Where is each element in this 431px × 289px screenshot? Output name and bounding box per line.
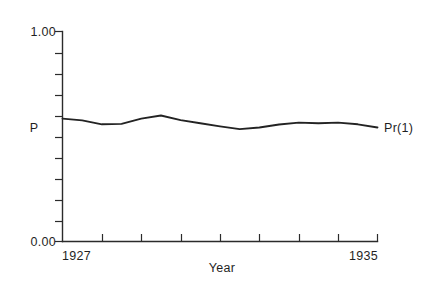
y-axis-min-label: 0.00 xyxy=(30,235,56,249)
y-axis-max-label: 1.00 xyxy=(30,25,56,39)
x-axis-minor-ticks xyxy=(103,234,339,242)
y-axis-title: P xyxy=(30,121,39,135)
series-annotation-pr1: Pr(1) xyxy=(384,121,413,135)
x-axis-min-label: 1927 xyxy=(62,249,91,263)
line-chart: 1.00 0.00 P 1927 1935 Year Pr(1) xyxy=(0,0,431,289)
chart-container: 1.00 0.00 P 1927 1935 Year Pr(1) xyxy=(0,0,431,289)
data-line-pr1 xyxy=(63,116,378,130)
x-axis-max-label: 1935 xyxy=(349,249,378,263)
y-axis-minor-ticks xyxy=(55,54,63,222)
x-axis-title: Year xyxy=(209,261,235,275)
